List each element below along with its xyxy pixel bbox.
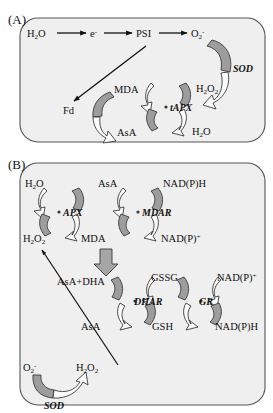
enzyme-label-tapx: tAPX xyxy=(170,102,193,113)
enzyme-label-mdar: MDAR xyxy=(141,207,172,218)
label-nadp-plus-b: NAD(P)+ xyxy=(161,233,201,245)
enzyme-label-apx: APX xyxy=(62,207,83,218)
tapx-junction-dot xyxy=(164,105,167,108)
figure-canvas: (A) H2O e- PSI O2- SOD H2O2 Fd MDA xyxy=(0,0,273,413)
label-nadph-b-top: NAD(P)H xyxy=(163,178,207,190)
label-asa-b-lower: AsA xyxy=(81,321,101,332)
apx-junction-dot xyxy=(57,210,60,213)
enzyme-label-dhar: DHAR xyxy=(133,296,163,307)
label-fd: Fd xyxy=(63,105,75,116)
label-nadp-plus-right: NAD(P)+ xyxy=(217,272,257,284)
enzyme-label-gr: GR xyxy=(199,296,213,307)
enzyme-label-sod-a: SOD xyxy=(233,63,253,74)
label-mda-a: MDA xyxy=(114,84,139,95)
panel-b-label: (B) xyxy=(8,157,25,172)
label-gsh: GSH xyxy=(152,321,173,332)
pathway-diagram: (A) H2O e- PSI O2- SOD H2O2 Fd MDA xyxy=(0,0,273,413)
panel-b: (B) APX H2O H2O2 MDA MDAR AsA NAD(P)H NA… xyxy=(8,157,265,411)
panel-a-label: (A) xyxy=(8,12,26,27)
label-asa-b-top: AsA xyxy=(98,178,118,189)
label-asa-plus-dha: AsA+DHA xyxy=(57,276,105,287)
label-psi: PSI xyxy=(136,28,152,39)
enzyme-label-sod-b: SOD xyxy=(44,400,64,411)
label-mda-b: MDA xyxy=(81,233,106,244)
mdar-junction-dot xyxy=(136,210,139,213)
label-gssg: GSSG xyxy=(151,272,178,283)
panel-a: (A) H2O e- PSI O2- SOD H2O2 Fd MDA xyxy=(8,12,265,143)
label-nadph-lower-right: NAD(P)H xyxy=(215,321,259,333)
label-asa-a: AsA xyxy=(117,127,137,138)
